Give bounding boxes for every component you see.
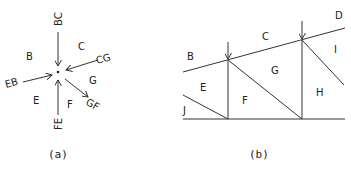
region-label-d: D <box>335 10 343 21</box>
force-label-bc: BC <box>53 12 64 26</box>
region-label-g: G <box>89 75 97 86</box>
force-label-eb: EB <box>4 76 20 90</box>
region-label-b: B <box>26 51 33 62</box>
diagonal-member-1 <box>228 60 302 119</box>
force-arrow-cg <box>66 60 98 70</box>
caption-b: (b) <box>249 148 269 161</box>
force-label-gf: GF <box>84 96 101 112</box>
region-label-f: F <box>67 99 73 110</box>
force-arrow-gf <box>65 79 88 97</box>
region-label-g: G <box>271 65 279 76</box>
caption-a: (a) <box>48 148 68 161</box>
diagonal-member-left <box>183 95 228 119</box>
joint-dot <box>57 71 60 74</box>
region-label-c: C <box>78 41 85 52</box>
panel-b-truss-diagram: B C D E F G H I J (b) <box>182 10 345 161</box>
region-label-f: F <box>242 95 248 106</box>
region-label-c: C <box>262 31 269 42</box>
region-label-h: H <box>316 87 324 98</box>
diagonal-member-2 <box>302 40 344 85</box>
region-label-e: E <box>200 82 206 93</box>
diagram-canvas: BC CG GF FE EB B C G E F (a) B C D E F G… <box>0 0 351 169</box>
region-label-j: J <box>182 105 186 116</box>
force-label-cg: CG <box>95 51 112 65</box>
force-label-fe: FE <box>53 118 64 130</box>
region-label-b: B <box>187 51 194 62</box>
region-label-e: E <box>33 95 39 106</box>
region-label-i: I <box>334 44 337 55</box>
panel-a-joint-diagram: BC CG GF FE EB B C G E F (a) <box>4 12 112 161</box>
force-arrow-eb <box>23 75 52 82</box>
